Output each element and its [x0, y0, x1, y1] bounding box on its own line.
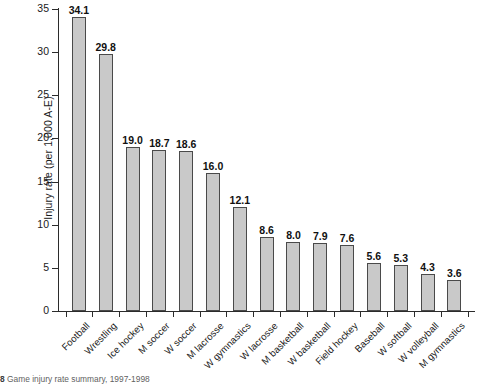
y-tick-label: 20	[37, 131, 49, 143]
y-tick: 30	[52, 52, 58, 53]
y-tick-label: 10	[37, 218, 49, 230]
bar: 8.6	[260, 237, 274, 311]
x-tick	[468, 312, 469, 317]
bar: 5.6	[367, 263, 381, 311]
bar: 12.1	[233, 207, 247, 311]
bar-value-label: 4.3	[420, 261, 435, 273]
bar: 18.6	[179, 151, 193, 311]
y-tick-label: 25	[37, 88, 49, 100]
bar: 16.0	[206, 173, 220, 311]
caption-text: Game injury rate summary, 1997-1998	[7, 374, 150, 384]
y-tick-label: 15	[37, 175, 49, 187]
bar: 18.7	[152, 150, 166, 311]
bar-value-label: 18.7	[149, 137, 169, 149]
y-tick-label: 35	[37, 2, 49, 14]
y-tick-label: 30	[37, 45, 49, 57]
bar-value-label: 7.9	[313, 230, 328, 242]
y-tick: 0	[52, 311, 58, 312]
bar-value-label: 16.0	[203, 160, 223, 172]
bar-value-label: 18.6	[176, 138, 196, 150]
bar: 3.6	[447, 280, 461, 311]
bar-value-label: 3.6	[447, 267, 462, 279]
bar-value-label: 34.1	[69, 4, 89, 16]
x-tick	[146, 312, 147, 317]
bar-value-label: 8.0	[286, 229, 301, 241]
x-tick	[66, 312, 67, 317]
y-tick: 10	[52, 225, 58, 226]
x-tick	[200, 312, 201, 317]
x-tick	[253, 312, 254, 317]
x-tick	[226, 312, 227, 317]
bar-value-label: 12.1	[230, 194, 250, 206]
bar: 7.6	[340, 245, 354, 311]
bar: 34.1	[72, 17, 86, 311]
bar: 8.0	[286, 242, 300, 311]
y-tick: 15	[52, 182, 58, 183]
y-tick-label: 0	[43, 304, 49, 316]
x-tick	[387, 312, 388, 317]
bar: 7.9	[313, 243, 327, 311]
bar: 5.3	[394, 265, 408, 311]
x-tick	[280, 312, 281, 317]
bar: 19.0	[126, 147, 140, 311]
x-tick	[334, 312, 335, 317]
y-tick-label: 5	[43, 261, 49, 273]
bar-value-label: 5.6	[367, 250, 382, 262]
bar: 29.8	[99, 54, 113, 311]
x-tick	[173, 312, 174, 317]
y-axis-title: Injury rate (per 1,000 A-E)	[42, 38, 54, 278]
bar-value-label: 29.8	[96, 41, 116, 53]
bar-value-label: 7.6	[340, 232, 355, 244]
bar: 4.3	[421, 274, 435, 311]
bar-value-label: 8.6	[259, 224, 274, 236]
y-tick: 5	[52, 268, 58, 269]
x-tick	[119, 312, 120, 317]
caption-number: 8	[0, 374, 5, 384]
bar-value-label: 19.0	[122, 134, 142, 146]
figure-caption: 8 Game injury rate summary, 1997-1998	[0, 374, 480, 384]
x-tick	[92, 312, 93, 317]
y-tick: 35	[52, 9, 58, 10]
x-tick	[441, 312, 442, 317]
x-axis-line	[58, 311, 475, 312]
y-axis-line	[58, 8, 59, 312]
x-tick	[307, 312, 308, 317]
y-tick: 25	[52, 95, 58, 96]
plot-area: 05101520253035 34.129.819.018.718.616.01…	[58, 8, 475, 312]
y-tick: 20	[52, 138, 58, 139]
bar-value-label: 5.3	[393, 252, 408, 264]
x-tick	[414, 312, 415, 317]
x-tick	[360, 312, 361, 317]
